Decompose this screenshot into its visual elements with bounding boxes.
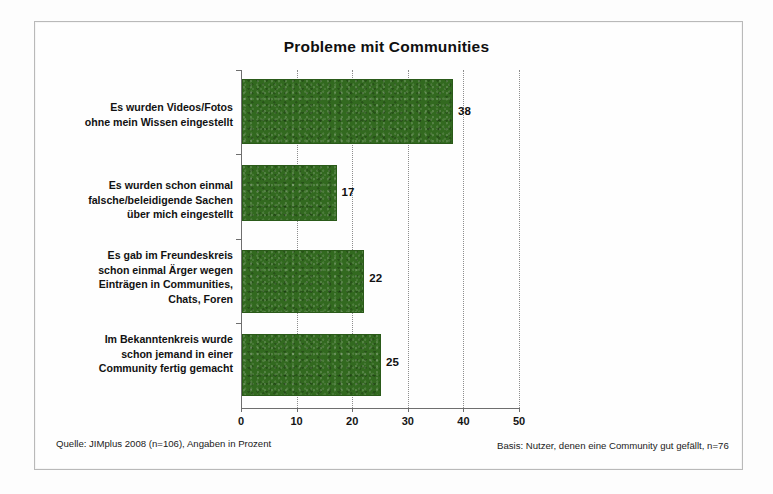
category-label-group: Es wurden Videos/Fotos ohne mein Wissen … bbox=[0, 70, 241, 408]
category-label-0-line-0: Es wurden Videos/Fotos bbox=[35, 100, 233, 115]
category-label-1-line-0: Es wurden schon einmal bbox=[35, 178, 233, 193]
x-tick-label-2: 20 bbox=[346, 415, 358, 427]
bar-value-2: 22 bbox=[369, 272, 382, 284]
y-tick-2 bbox=[236, 239, 241, 240]
bar-2[interactable] bbox=[242, 250, 364, 313]
y-tick-1 bbox=[236, 154, 241, 155]
basis-note: Basis: Nutzer, denen eine Community gut … bbox=[497, 440, 729, 451]
x-tick-label-1: 10 bbox=[290, 415, 302, 427]
x-tick-0 bbox=[241, 408, 242, 412]
bar-3[interactable] bbox=[242, 334, 381, 396]
x-tick-10 bbox=[297, 408, 298, 412]
x-tick-label-5: 50 bbox=[513, 415, 525, 427]
category-label-2: Es gab im Freundeskreis schon einmal Ärg… bbox=[35, 248, 241, 306]
category-label-1: Es wurden schon einmal falsche/beleidige… bbox=[35, 178, 241, 222]
x-tick-20 bbox=[352, 408, 353, 412]
category-label-2-line-1: schon einmal Ärger wegen bbox=[35, 263, 233, 278]
source-note: Quelle: JIMplus 2008 (n=106), Angaben in… bbox=[56, 438, 271, 449]
bar-0[interactable] bbox=[242, 79, 453, 144]
plot-area: 0 10 20 30 40 50 38 17 22 25 bbox=[241, 70, 519, 408]
category-label-2-line-0: Es gab im Freundeskreis bbox=[35, 248, 233, 263]
x-tick-label-4: 40 bbox=[457, 415, 469, 427]
y-tick-3 bbox=[236, 323, 241, 324]
bar-1[interactable] bbox=[242, 165, 337, 221]
x-tick-label-3: 30 bbox=[402, 415, 414, 427]
page-title: Probleme mit Communities bbox=[0, 38, 773, 56]
x-tick-30 bbox=[408, 408, 409, 412]
chart-page: Probleme mit Communities Es wurden Video… bbox=[0, 0, 773, 494]
category-label-3-line-0: Im Bekanntenkreis wurde bbox=[35, 332, 233, 347]
x-axis-line bbox=[241, 408, 519, 409]
bar-value-1: 17 bbox=[342, 186, 355, 198]
category-label-3-line-2: Community fertig gemacht bbox=[35, 361, 233, 376]
category-label-2-line-3: Chats, Foren bbox=[35, 292, 233, 307]
bar-value-3: 25 bbox=[386, 356, 399, 368]
y-tick-0 bbox=[236, 70, 241, 71]
category-label-3: Im Bekanntenkreis wurde schon jemand in … bbox=[35, 332, 241, 376]
category-label-0-line-1: ohne mein Wissen eingestellt bbox=[35, 115, 233, 130]
x-tick-label-0: 0 bbox=[238, 415, 244, 427]
bar-value-0: 38 bbox=[458, 105, 471, 117]
x-tick-40 bbox=[463, 408, 464, 412]
x-tick-50 bbox=[519, 408, 520, 412]
gridline-50 bbox=[519, 70, 520, 408]
category-label-1-line-1: falsche/beleidigende Sachen bbox=[35, 193, 233, 208]
gridline-40 bbox=[463, 70, 464, 408]
category-label-1-line-2: über mich eingestellt bbox=[35, 207, 233, 222]
category-label-0: Es wurden Videos/Fotos ohne mein Wissen … bbox=[35, 100, 241, 129]
category-label-2-line-2: Einträgen in Communities, bbox=[35, 277, 233, 292]
category-label-3-line-1: schon jemand in einer bbox=[35, 347, 233, 362]
